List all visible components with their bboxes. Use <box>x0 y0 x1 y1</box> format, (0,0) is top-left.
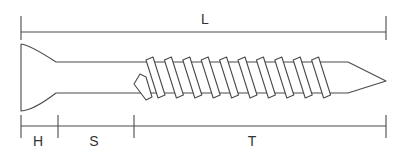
screw-body <box>21 44 386 111</box>
thread-start-partial <box>134 74 152 100</box>
thread-crest <box>275 57 294 98</box>
dimension-S-label: S <box>89 133 98 149</box>
screw-diagram: L H S T <box>0 0 403 155</box>
screw-threads <box>146 57 331 98</box>
thread-crest <box>238 57 257 98</box>
dimension-L: L <box>21 11 386 40</box>
thread-crest <box>164 57 183 98</box>
thread-crest <box>201 57 220 98</box>
dimension-T-label: T <box>248 133 257 149</box>
screw-tip <box>348 62 386 93</box>
dimension-L-label: L <box>201 11 209 27</box>
thread-crest <box>220 57 239 98</box>
dimension-H-label: H <box>33 133 43 149</box>
screw-head <box>21 44 56 111</box>
thread-crest <box>183 57 202 98</box>
thread-crest <box>256 57 275 98</box>
thread-crest <box>312 57 331 98</box>
thread-crest <box>293 57 312 98</box>
dimension-bottom: H S T <box>21 115 386 149</box>
